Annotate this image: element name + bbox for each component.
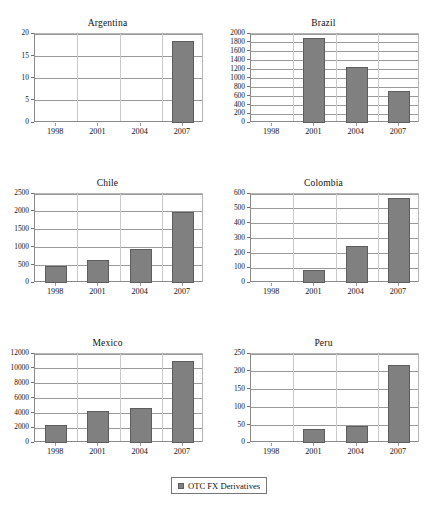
- category-divider: [378, 34, 379, 121]
- y-tick-mark: [31, 353, 34, 354]
- y-tick-mark: [247, 33, 250, 34]
- x-tick-mark: [97, 123, 98, 126]
- x-tick-label: 1998: [35, 288, 75, 296]
- plot-area: [250, 193, 419, 282]
- chart-title: Colombia: [216, 178, 431, 188]
- y-tick-mark: [247, 424, 250, 425]
- bar-2007: [172, 212, 194, 283]
- bar-2007: [172, 41, 194, 123]
- y-tick-mark: [247, 442, 250, 443]
- y-tick-mark: [247, 237, 250, 238]
- gridline: [251, 60, 418, 61]
- x-tick-mark: [271, 283, 272, 286]
- x-tick-label: 2007: [378, 128, 418, 136]
- x-tick-label: 2001: [293, 288, 333, 296]
- gridline: [251, 194, 418, 195]
- x-tick-label: 2007: [378, 288, 418, 296]
- y-tick-label: 500: [216, 204, 245, 211]
- x-tick-mark: [55, 283, 56, 286]
- bar-2007: [388, 91, 410, 123]
- y-tick-mark: [247, 353, 250, 354]
- y-tick-mark: [31, 264, 34, 265]
- y-tick-mark: [31, 397, 34, 398]
- bar-1998: [45, 266, 67, 283]
- x-tick-label: 1998: [35, 448, 75, 456]
- x-tick-mark: [356, 283, 357, 286]
- y-tick-label: 100: [216, 263, 245, 270]
- chart-panel-chile: Chile05001000150020002500199820012004200…: [0, 160, 215, 320]
- category-divider: [378, 194, 379, 281]
- y-tick-label: 4000: [0, 409, 29, 416]
- y-tick-label: 1400: [216, 56, 245, 63]
- y-tick-label: 12000: [0, 349, 29, 356]
- y-tick-label: 1500: [0, 225, 29, 232]
- category-divider: [77, 194, 78, 281]
- bar-2004: [130, 408, 152, 443]
- category-divider: [162, 34, 163, 121]
- category-divider: [77, 34, 78, 121]
- plot-area: [34, 33, 203, 122]
- x-tick-mark: [140, 443, 141, 446]
- gridline: [251, 87, 418, 88]
- y-tick-label: 1800: [216, 38, 245, 45]
- x-tick-mark: [313, 123, 314, 126]
- gridline: [35, 34, 202, 35]
- y-tick-label: 400: [216, 101, 245, 108]
- x-tick-mark: [398, 123, 399, 126]
- y-tick-label: 150: [216, 385, 245, 392]
- category-divider: [336, 34, 337, 121]
- y-tick-mark: [247, 252, 250, 253]
- category-divider: [77, 354, 78, 441]
- y-tick-label: 8000: [0, 379, 29, 386]
- category-divider: [378, 354, 379, 441]
- chart-panel-argentina: Argentina051015201998200120042007: [0, 0, 215, 160]
- x-tick-label: 2007: [162, 128, 202, 136]
- x-tick-label: 2001: [77, 448, 117, 456]
- y-tick-mark: [247, 68, 250, 69]
- y-tick-label: 1000: [0, 243, 29, 250]
- y-tick-mark: [31, 228, 34, 229]
- category-divider: [293, 194, 294, 281]
- x-tick-mark: [398, 283, 399, 286]
- legend-swatch-icon: [178, 483, 184, 489]
- y-tick-label: 5: [0, 96, 29, 103]
- y-tick-label: 10000: [0, 364, 29, 371]
- x-tick-mark: [356, 123, 357, 126]
- y-tick-mark: [247, 222, 250, 223]
- y-tick-label: 15: [0, 52, 29, 59]
- y-tick-label: 2000: [0, 423, 29, 430]
- x-tick-mark: [182, 283, 183, 286]
- y-tick-label: 400: [216, 219, 245, 226]
- y-tick-mark: [31, 442, 34, 443]
- y-tick-mark: [247, 193, 250, 194]
- bar-2007: [388, 198, 410, 283]
- y-tick-mark: [247, 95, 250, 96]
- chart-title: Peru: [216, 338, 431, 348]
- gridline: [251, 354, 418, 355]
- y-tick-mark: [247, 41, 250, 42]
- y-tick-mark: [31, 193, 34, 194]
- x-tick-label: 2004: [120, 288, 160, 296]
- gridline: [251, 51, 418, 52]
- x-tick-label: 2001: [293, 448, 333, 456]
- gridline: [251, 78, 418, 79]
- x-tick-mark: [55, 123, 56, 126]
- x-tick-label: 1998: [251, 128, 291, 136]
- y-tick-mark: [247, 50, 250, 51]
- y-tick-mark: [31, 382, 34, 383]
- x-tick-label: 2007: [162, 288, 202, 296]
- gridline: [35, 194, 202, 195]
- y-tick-label: 6000: [0, 394, 29, 401]
- y-tick-mark: [31, 367, 34, 368]
- plot-area: [250, 33, 419, 122]
- y-tick-label: 0: [216, 278, 245, 285]
- y-tick-mark: [31, 122, 34, 123]
- y-tick-label: 2000: [0, 207, 29, 214]
- x-tick-mark: [271, 443, 272, 446]
- y-tick-mark: [247, 113, 250, 114]
- y-tick-label: 0: [0, 118, 29, 125]
- x-tick-mark: [313, 443, 314, 446]
- y-tick-mark: [247, 406, 250, 407]
- bar-2007: [388, 365, 410, 443]
- plot-area: [34, 193, 203, 282]
